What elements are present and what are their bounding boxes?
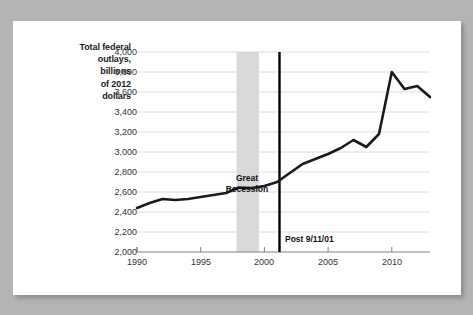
x-tick-label-2005: 2005 xyxy=(308,257,348,267)
y-tick-label-3200: 3,200 xyxy=(95,127,137,137)
x-tick-label-1995: 1995 xyxy=(181,257,221,267)
great-recession-band xyxy=(237,52,259,252)
y-tick-label-3800: 3,800 xyxy=(95,67,137,77)
y-tick-label-3400: 3,400 xyxy=(95,107,137,117)
great-recession-annotation-label: Great Recession xyxy=(209,173,285,195)
x-axis-ticks xyxy=(137,247,392,252)
y-tick-label-4000: 4,000 xyxy=(95,47,137,57)
x-tick-label-2010: 2010 xyxy=(372,257,412,267)
y-tick-label-2800: 2,800 xyxy=(95,167,137,177)
x-tick-label-2000: 2000 xyxy=(244,257,284,267)
y-tick-label-3600: 3,600 xyxy=(95,87,137,97)
grid-lines xyxy=(137,52,430,232)
great-recession-label-line-2: Recession xyxy=(209,184,285,195)
post-9-11-annotation-label: Post 9/11/01 xyxy=(285,234,334,245)
y-tick-label-2600: 2,600 xyxy=(95,187,137,197)
y-tick-label-3000: 3,000 xyxy=(95,147,137,157)
y-tick-label-2000: 2,000 xyxy=(95,247,137,257)
x-tick-label-1990: 1990 xyxy=(117,257,157,267)
y-tick-label-2200: 2,200 xyxy=(95,227,137,237)
y-tick-label-2400: 2,400 xyxy=(95,207,137,217)
figure-card: Total federal outlays, billions of 2012 … xyxy=(13,21,461,295)
great-recession-label-line-1: Great xyxy=(209,173,285,184)
line-chart: Total federal outlays, billions of 2012 … xyxy=(13,21,461,295)
